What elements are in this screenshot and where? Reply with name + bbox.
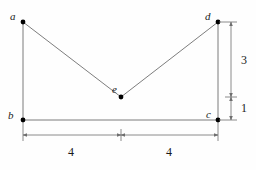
vertical-dimension-group [219,22,237,120]
vertex-label-d: d [205,11,211,22]
vertex-point-a [21,20,26,25]
figure-canvas [0,0,256,170]
vertex-label-b: b [8,110,14,121]
dimension-label-vertical-lower: 1 [241,102,247,114]
vertex-point-e [119,95,124,100]
figure-edges [23,22,218,120]
vertex-label-e: e [112,84,117,95]
dimension-label-vertical-upper: 3 [241,54,247,66]
vertex-label-a: a [10,11,16,22]
dimension-label-horizontal-left: 4 [68,146,74,158]
vertex-point-b [21,118,26,123]
dimension-label-horizontal-right: 4 [166,146,172,158]
geometry-figure: a b c d e 3 1 4 4 [0,0,256,170]
vertex-label-c: c [206,109,211,120]
figure-vertices [21,20,221,123]
edge-a-e [23,22,121,97]
horizontal-dimension-group [23,122,218,141]
edge-e-d [121,22,218,97]
